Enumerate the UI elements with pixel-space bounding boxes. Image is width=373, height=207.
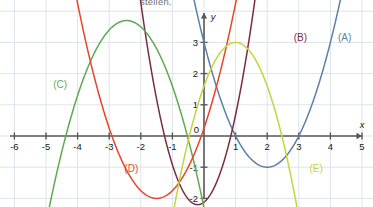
x-tick-label: 5	[359, 141, 364, 152]
x-axis-arrowhead	[357, 133, 363, 139]
curve-label-a: (A)	[338, 32, 351, 43]
x-tick-label: 2	[265, 141, 270, 152]
curve-label-b: (B)	[294, 32, 307, 43]
axis-ticks	[14, 42, 362, 198]
x-tick-label: -1	[168, 141, 176, 152]
y-axis-name: y	[210, 11, 217, 22]
y-tick-label: 2	[193, 68, 198, 79]
axis-names: xy	[210, 11, 366, 130]
x-tick-label: -5	[42, 141, 50, 152]
graph-figure: stellen. -6-5-4-3-2-112345321-1-20 (A)(B…	[0, 0, 373, 207]
x-tick-label: -2	[137, 141, 145, 152]
y-tick-label: 3	[193, 37, 198, 48]
curve-labels: (A)(B)(C)(D)(E)	[53, 32, 351, 174]
curve-label-e: (E)	[310, 163, 323, 174]
curve-c	[46, 21, 207, 207]
x-axis-name: x	[359, 119, 366, 130]
curve-label-d: (D)	[124, 163, 138, 174]
origin-label: 0	[194, 124, 199, 135]
curve-label-c: (C)	[53, 79, 67, 90]
x-tick-label: 1	[233, 141, 238, 152]
x-tick-label: -4	[73, 141, 81, 152]
axis-tick-labels: -6-5-4-3-2-112345321-1-20	[10, 37, 364, 204]
x-tick-label: 3	[296, 141, 301, 152]
x-tick-label: -3	[105, 141, 113, 152]
y-axis-arrowhead	[201, 13, 207, 19]
x-tick-label: -6	[10, 141, 18, 152]
x-tick-label: 4	[328, 141, 333, 152]
coordinate-plane: -6-5-4-3-2-112345321-1-20 (A)(B)(C)(D)(E…	[0, 0, 373, 207]
